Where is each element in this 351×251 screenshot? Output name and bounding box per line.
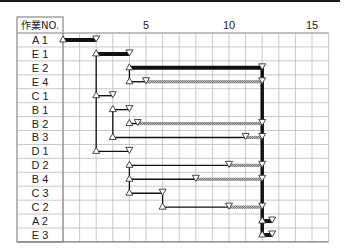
start-marker-icon bbox=[126, 175, 133, 181]
end-marker-icon bbox=[159, 189, 166, 195]
start-marker-icon bbox=[93, 147, 100, 153]
x-tick-label: 10 bbox=[223, 19, 235, 31]
float-bar bbox=[246, 136, 263, 139]
float-bar bbox=[146, 80, 262, 83]
row-label: A 2 bbox=[32, 215, 48, 227]
float-bar bbox=[138, 122, 263, 125]
row-label: E 1 bbox=[32, 48, 49, 60]
row-label: A 1 bbox=[32, 34, 48, 46]
end-marker-icon bbox=[126, 147, 133, 153]
start-marker-icon bbox=[126, 161, 133, 167]
row-label: D 2 bbox=[31, 159, 48, 171]
start-marker-icon bbox=[126, 78, 133, 84]
float-bar bbox=[196, 178, 262, 181]
row-label: E 2 bbox=[32, 62, 49, 74]
row-label: D 1 bbox=[31, 145, 48, 157]
x-tick-label: 5 bbox=[143, 19, 149, 31]
row-label: B 3 bbox=[32, 131, 49, 143]
row-label: B 1 bbox=[32, 104, 49, 116]
row-label: C 3 bbox=[31, 187, 48, 199]
header-label: 作業NO. bbox=[21, 19, 59, 31]
row-label: E 3 bbox=[32, 229, 49, 241]
float-bar bbox=[229, 206, 262, 209]
row-label: C 1 bbox=[31, 90, 48, 102]
end-marker-icon bbox=[126, 106, 133, 112]
start-marker-icon bbox=[126, 120, 133, 126]
x-tick-label: 15 bbox=[306, 19, 318, 31]
start-marker-icon bbox=[109, 133, 116, 139]
row-label: B 4 bbox=[32, 173, 49, 185]
row-label: E 4 bbox=[32, 76, 49, 88]
start-marker-icon bbox=[93, 92, 100, 98]
gantt-chart: 作業NO.51015A 1E 1E 2E 4C 1B 1B 2B 3D 1D 2… bbox=[0, 0, 351, 251]
end-marker-icon bbox=[109, 92, 116, 98]
row-label: C 2 bbox=[31, 201, 48, 213]
row-label: B 2 bbox=[32, 118, 49, 130]
start-marker-icon bbox=[126, 189, 133, 195]
start-marker-icon bbox=[159, 203, 166, 209]
float-bar bbox=[229, 164, 262, 167]
start-marker-icon bbox=[109, 106, 116, 112]
